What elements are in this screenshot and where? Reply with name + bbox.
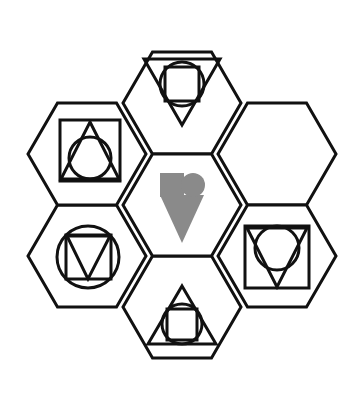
hexagon-grid: [0, 0, 359, 400]
hexagon-top-right[interactable]: [218, 103, 336, 205]
hexagon-bottom-left[interactable]: [28, 205, 146, 307]
puzzle-figure: Hexagonal shape-matrix puzzle: [0, 0, 359, 400]
circle-filled-icon: [181, 173, 205, 197]
hexagon-bottom-right[interactable]: [218, 205, 336, 307]
square-filled-icon: [160, 173, 184, 197]
hexagon-top-left[interactable]: [28, 103, 146, 205]
